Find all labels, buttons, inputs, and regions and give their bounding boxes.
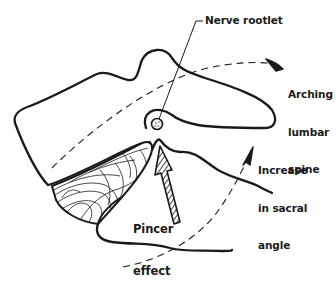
sacral-line-2: in sacral bbox=[258, 202, 308, 215]
arching-arrow-icon bbox=[266, 59, 283, 71]
sacral-line-3: angle bbox=[258, 239, 308, 252]
sacral-line-1: Increase bbox=[258, 164, 308, 177]
arching-line-1: Arching bbox=[288, 88, 333, 101]
pincer-line-2: effect bbox=[133, 264, 173, 278]
arching-line-2: lumbar bbox=[288, 126, 333, 139]
nerve-rootlet-marker bbox=[152, 119, 163, 130]
nerve-rootlet-label: Nerve rootlet bbox=[205, 14, 283, 27]
nerve-rootlet-leader bbox=[159, 21, 203, 119]
sacral-angle-label: Increase in sacral angle bbox=[258, 139, 308, 277]
sacral-arrow-icon bbox=[243, 147, 253, 165]
pincer-effect-label: Pincer effect bbox=[133, 194, 173, 281]
pincer-line-1: Pincer bbox=[133, 222, 173, 236]
lumbosacral-diagram: Nerve rootlet Arching lumbar spine Incre… bbox=[0, 0, 336, 281]
